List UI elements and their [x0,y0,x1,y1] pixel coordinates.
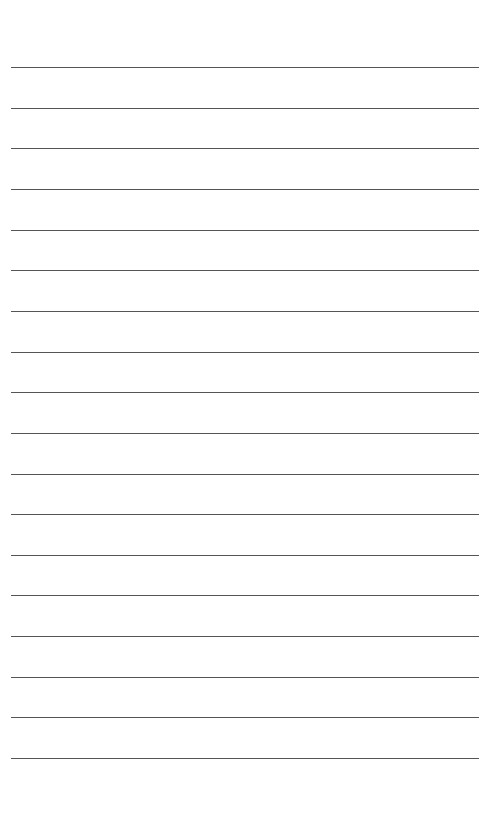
ruled-line [11,311,479,312]
ruled-line [11,148,479,149]
ruled-line [11,717,479,718]
ruled-line [11,433,479,434]
ruled-line [11,352,479,353]
ruled-line [11,514,479,515]
ruled-line [11,758,479,759]
ruled-line [11,677,479,678]
ruled-line [11,595,479,596]
ruled-line [11,230,479,231]
ruled-line [11,108,479,109]
ruled-line [11,555,479,556]
ruled-line [11,189,479,190]
ruled-line [11,474,479,475]
ruled-line [11,636,479,637]
ruled-line [11,67,479,68]
ruled-line [11,392,479,393]
ruled-line [11,270,479,271]
